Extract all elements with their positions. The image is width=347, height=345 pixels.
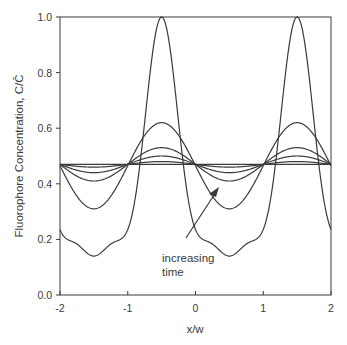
annotation-arrow: [186, 192, 216, 238]
curve-t0: [60, 17, 331, 256]
y-tick-label: 0.4: [37, 178, 52, 190]
curve-t1: [60, 123, 331, 209]
y-tick-label: 0.8: [37, 67, 52, 79]
x-tick-label: 1: [260, 302, 266, 314]
annotation-text-line1: increasing: [162, 252, 214, 264]
x-tick-label: 0: [193, 302, 199, 314]
annotation: increasing time: [162, 187, 219, 278]
y-axis-ticks: 0.00.20.40.60.81.0: [37, 11, 60, 301]
x-tick-label: -2: [55, 302, 64, 314]
chart: 0.00.20.40.60.81.0 -2-1012 x/w Fluoropho…: [0, 0, 347, 345]
x-axis-ticks: -2-1012: [55, 291, 334, 314]
y-tick-label: 0.6: [37, 122, 52, 134]
y-tick-label: 0.0: [37, 289, 52, 301]
annotation-text-line2: time: [162, 266, 184, 278]
x-tick-label: 2: [328, 302, 334, 314]
x-axis-title: x/w: [186, 323, 204, 335]
y-tick-label: 0.2: [37, 233, 52, 245]
y-tick-label: 1.0: [37, 11, 52, 23]
y-axis-title: Fluorophore Concentration, C/C̄: [13, 75, 25, 238]
data-curves: [60, 17, 331, 256]
arrow-head-icon: [209, 187, 219, 197]
x-tick-label: -1: [123, 302, 132, 314]
